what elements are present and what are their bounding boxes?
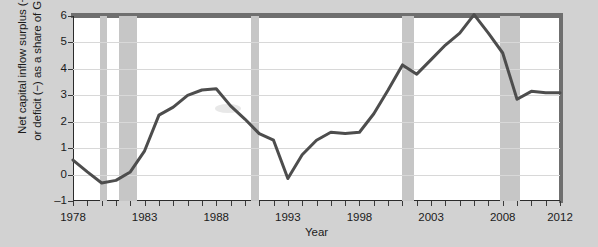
- x-tick-mark: [560, 201, 561, 206]
- x-tick-mark: [317, 201, 318, 206]
- y-tick-label: 5: [43, 36, 67, 48]
- y-tick-label: 6: [43, 10, 67, 22]
- y-axis-title-line-2: or deficit (−) as a share of GDP: [30, 0, 45, 161]
- x-tick-mark: [259, 201, 260, 206]
- y-tick-label: 4: [43, 63, 67, 75]
- y-tick-label: 2: [43, 116, 67, 128]
- x-tick-mark: [474, 201, 475, 206]
- x-tick-label: 1983: [125, 212, 165, 224]
- x-tick-mark: [374, 201, 375, 206]
- x-tick-mark: [488, 201, 489, 206]
- x-tick-mark: [216, 201, 217, 206]
- plot-area: –10123456 197819831988199319982003200820…: [73, 16, 560, 201]
- x-tick-mark: [102, 201, 103, 206]
- y-tick-label: –1: [43, 195, 67, 207]
- x-tick-mark: [531, 201, 532, 206]
- x-tick-mark: [288, 201, 289, 206]
- x-tick-mark: [245, 201, 246, 206]
- x-tick-mark: [517, 201, 518, 206]
- x-tick-mark: [202, 201, 203, 206]
- x-tick-mark: [359, 201, 360, 206]
- y-tick-label: 0: [43, 169, 67, 181]
- x-tick-mark: [188, 201, 189, 206]
- x-tick-label: 1978: [53, 212, 93, 224]
- y-tick-label: 3: [43, 89, 67, 101]
- x-tick-mark: [388, 201, 389, 206]
- x-tick-mark: [231, 201, 232, 206]
- x-tick-label: 1988: [196, 212, 236, 224]
- y-axis-title: Net capital inflow surplus (+) or defici…: [15, 0, 49, 161]
- x-tick-mark: [331, 201, 332, 206]
- x-tick-mark: [173, 201, 174, 206]
- chart-figure: Net capital inflow surplus (+) or defici…: [0, 0, 598, 247]
- x-tick-mark: [546, 201, 547, 206]
- x-tick-mark: [116, 201, 117, 206]
- x-tick-mark: [274, 201, 275, 206]
- x-tick-mark: [460, 201, 461, 206]
- x-tick-mark: [87, 201, 88, 206]
- x-tick-mark: [503, 201, 504, 206]
- x-tick-mark: [145, 201, 146, 206]
- x-tick-mark: [417, 201, 418, 206]
- x-tick-label: 1998: [339, 212, 379, 224]
- y-tick-label: 1: [43, 142, 67, 154]
- x-tick-mark: [431, 201, 432, 206]
- x-tick-mark: [402, 201, 403, 206]
- x-axis-title: Year: [73, 226, 560, 238]
- x-tick-mark: [73, 201, 74, 206]
- x-tick-mark: [130, 201, 131, 206]
- series-line-chart: [73, 16, 560, 201]
- x-tick-mark: [302, 201, 303, 206]
- x-tick-mark: [345, 201, 346, 206]
- x-tick-label: 1993: [268, 212, 308, 224]
- x-tick-label: 2008: [483, 212, 523, 224]
- series-line-net-capital-inflow: [73, 15, 560, 183]
- x-tick-mark: [159, 201, 160, 206]
- y-axis-title-line-1: Net capital inflow surplus (+): [15, 0, 30, 161]
- x-tick-mark: [445, 201, 446, 206]
- x-tick-label: 2012: [540, 212, 580, 224]
- x-tick-label: 2003: [411, 212, 451, 224]
